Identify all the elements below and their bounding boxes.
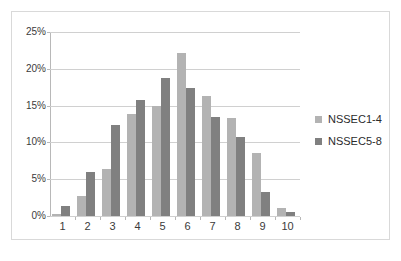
bar[interactable]: [261, 192, 270, 216]
x-axis-tick-label: 10: [275, 220, 300, 232]
y-axis-tick-labels: 0%5%10%15%20%25%: [12, 12, 46, 241]
y-axis-tick-mark: [47, 69, 50, 70]
bar-group: [75, 32, 100, 216]
bar-group: [250, 32, 275, 216]
y-axis-tick-label: 10%: [12, 137, 46, 147]
x-axis-tick-label: 6: [175, 220, 200, 232]
bar[interactable]: [236, 137, 245, 216]
chart-legend: NSSEC1-4NSSEC5-8: [315, 108, 395, 152]
bar[interactable]: [227, 118, 236, 216]
bar[interactable]: [177, 53, 186, 216]
legend-swatch-icon: [315, 138, 322, 145]
x-axis-tick-label: 9: [250, 220, 275, 232]
bar-group: [275, 32, 300, 216]
plot-area: [50, 32, 300, 216]
y-axis-tick-label: 20%: [12, 64, 46, 74]
x-axis-tick-label: 8: [225, 220, 250, 232]
bar[interactable]: [102, 169, 111, 216]
legend-item-label: NSSEC5-8: [328, 135, 382, 147]
bar[interactable]: [277, 208, 286, 216]
legend-item-label: NSSEC1-4: [328, 113, 382, 125]
y-axis-tick-label: 0%: [12, 211, 46, 221]
bar-group: [100, 32, 125, 216]
y-axis-tick-mark: [47, 179, 50, 180]
bar-group: [50, 32, 75, 216]
y-axis-tick-mark: [47, 32, 50, 33]
bar-group: [200, 32, 225, 216]
y-axis-tick-label: 25%: [12, 27, 46, 37]
bar-group: [225, 32, 250, 216]
bar[interactable]: [186, 88, 195, 216]
bar[interactable]: [161, 78, 170, 216]
bar[interactable]: [52, 214, 61, 216]
y-axis-tick-label: 5%: [12, 174, 46, 184]
bar[interactable]: [211, 117, 220, 216]
bar[interactable]: [61, 206, 70, 216]
y-axis-tick-label: 15%: [12, 101, 46, 111]
y-axis-tick-mark: [47, 216, 50, 217]
x-axis-tick-label: 5: [150, 220, 175, 232]
x-axis-tick-label: 1: [50, 220, 75, 232]
y-axis-tick-mark: [47, 142, 50, 143]
bar[interactable]: [252, 153, 261, 216]
bar[interactable]: [136, 100, 145, 216]
bar[interactable]: [86, 172, 95, 216]
bar[interactable]: [127, 114, 136, 216]
bar[interactable]: [111, 125, 120, 216]
bar[interactable]: [77, 196, 86, 216]
bar[interactable]: [286, 212, 295, 216]
bar-group: [175, 32, 200, 216]
x-axis-tick-label: 4: [125, 220, 150, 232]
y-axis-tick-mark: [47, 106, 50, 107]
legend-item[interactable]: NSSEC1-4: [315, 108, 395, 130]
x-axis-tick-label: 7: [200, 220, 225, 232]
x-axis-tick-label: 3: [100, 220, 125, 232]
x-axis-tick-label: 2: [75, 220, 100, 232]
bar-group: [150, 32, 175, 216]
legend-item[interactable]: NSSEC5-8: [315, 130, 395, 152]
bar-group: [125, 32, 150, 216]
legend-swatch-icon: [315, 116, 322, 123]
chart-frame: 0%5%10%15%20%25% NSSEC1-4NSSEC5-8 123456…: [11, 11, 390, 240]
bar[interactable]: [152, 106, 161, 216]
x-axis-tick-mark: [300, 217, 301, 220]
bar[interactable]: [202, 96, 211, 216]
